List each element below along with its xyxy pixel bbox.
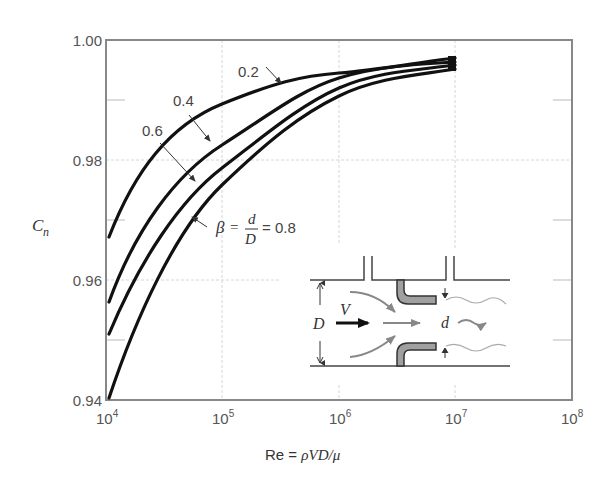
beta-value: = 0.8	[262, 219, 296, 236]
fraction-denominator: D	[244, 231, 256, 247]
beta-equals: =	[230, 219, 238, 235]
label-beta-0.4: 0.4	[173, 92, 194, 109]
y-tick-0.94: 0.94	[73, 392, 102, 409]
y-title-sub: n	[43, 225, 49, 239]
x-tick-1e7: 107	[445, 408, 468, 427]
x-axis-title: Re = ρVD/μ	[265, 446, 341, 463]
flow-nozzle-inset: D V d	[310, 256, 510, 366]
inset-label-D: D	[312, 315, 325, 332]
curve-labels: 0.2 0.4 0.6 β = d D = 0.8	[142, 63, 296, 247]
y-tick-0.98: 0.98	[73, 152, 102, 169]
curve-beta-0.4	[109, 62, 455, 302]
y-axis-title: C n	[32, 216, 49, 239]
x-tick-1e5: 105	[212, 408, 235, 427]
discharge-coefficient-chart: 0.2 0.4 0.6 β = d D = 0.8 1.00 0.98 0.96…	[0, 0, 610, 494]
y-tick-0.96: 0.96	[73, 272, 102, 289]
inset-label-V: V	[340, 301, 352, 318]
label-beta-0.6: 0.6	[142, 122, 163, 139]
x-axis-labels: 104 105 106 107 108	[96, 408, 584, 427]
inset-label-d: d	[441, 314, 450, 331]
beta-symbol: β	[215, 218, 225, 237]
y-axis-labels: 1.00 0.98 0.96 0.94	[73, 32, 102, 409]
x-tick-1e6: 106	[329, 408, 352, 427]
curve-beta-0.2	[109, 58, 455, 237]
curve-end-cap	[448, 56, 456, 71]
x-tick-1e4: 104	[96, 408, 119, 427]
fraction-numerator: d	[248, 211, 256, 227]
x-tick-1e8: 108	[561, 408, 584, 427]
y-tick-1.00: 1.00	[73, 32, 102, 49]
label-beta-0.2: 0.2	[238, 63, 259, 80]
